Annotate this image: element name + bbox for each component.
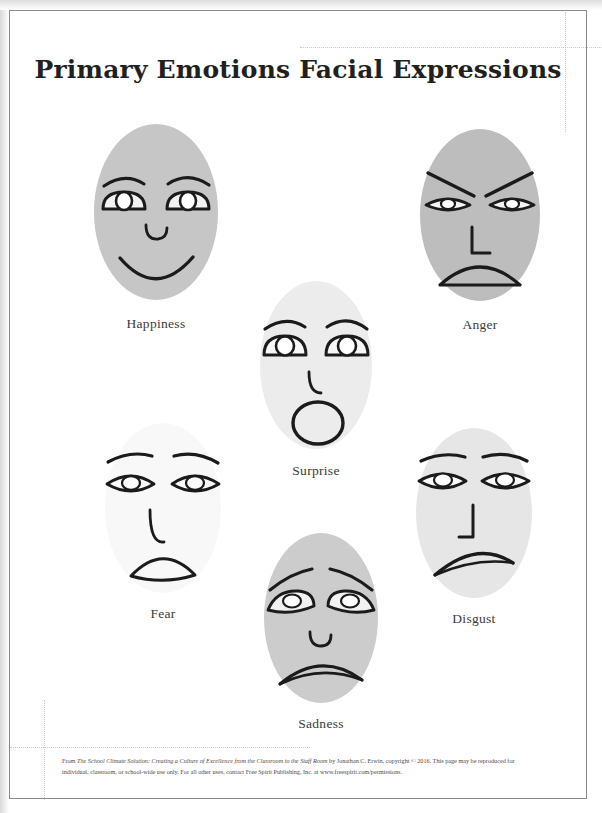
- face-oval: [105, 423, 221, 593]
- iris-right: [341, 595, 359, 608]
- face-oval: [94, 124, 218, 300]
- face-label-surprise: Surprise: [243, 463, 389, 479]
- surprise-face-drawing: [243, 275, 389, 461]
- iris-left: [283, 595, 301, 608]
- iris-left: [122, 476, 140, 490]
- iris-right: [505, 199, 519, 209]
- face-label-anger: Anger: [404, 317, 556, 333]
- face-card-anger: Anger: [404, 123, 556, 333]
- anger-face-drawing: [404, 123, 556, 315]
- iris-left: [276, 337, 294, 356]
- disgust-face-drawing: [399, 423, 549, 609]
- iris-right: [496, 474, 514, 487]
- footer-book-title: The School Climate Solution: Creating a …: [77, 757, 328, 764]
- face-card-sadness: Sadness: [248, 528, 394, 732]
- page-title: Primary Emotions Facial Expressions: [9, 55, 587, 84]
- face-label-happiness: Happiness: [78, 316, 234, 332]
- iris-right: [338, 337, 356, 356]
- sadness-face-drawing: [248, 528, 394, 714]
- iris-left: [116, 192, 132, 210]
- footer-lead: From: [62, 757, 77, 764]
- face-card-surprise: Surprise: [243, 275, 389, 479]
- iris-left: [441, 199, 455, 209]
- iris-right: [180, 192, 196, 210]
- face-card-fear: Fear: [88, 418, 238, 622]
- iris-left: [434, 474, 452, 487]
- copyright-footer: From The School Climate Solution: Creati…: [62, 755, 532, 778]
- face-label-disgust: Disgust: [399, 611, 549, 627]
- face-card-happiness: Happiness: [78, 118, 234, 332]
- face-label-sadness: Sadness: [248, 716, 394, 732]
- face-card-disgust: Disgust: [399, 423, 549, 627]
- scan-edge-top: [0, 0, 602, 10]
- scan-edge-left: [0, 0, 9, 813]
- iris-right: [186, 476, 204, 490]
- happiness-face-drawing: [78, 118, 234, 314]
- face-oval: [420, 129, 540, 301]
- worksheet-page: Primary Emotions Facial Expressions Happ…: [0, 0, 602, 813]
- fear-face-drawing: [88, 418, 238, 604]
- face-label-fear: Fear: [88, 606, 238, 622]
- face-oval: [260, 281, 372, 449]
